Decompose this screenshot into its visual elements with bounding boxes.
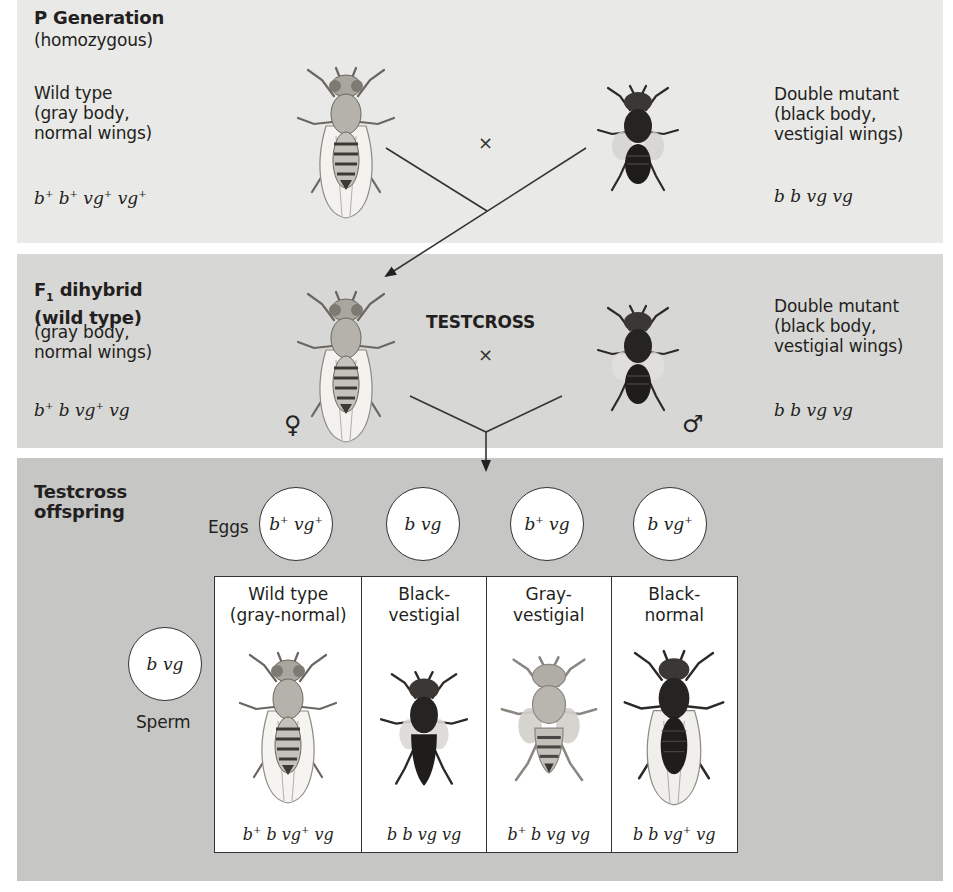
cross-symbol: × [478,132,493,153]
f1-title-line1: F1 dihybrid [34,280,142,308]
offspring-cell-black-vestigial: Black- vestigial b b vg vg [362,577,487,852]
offspring-phenotype: Black- normal [612,584,738,626]
phenotype-line: Double mutant [774,84,903,104]
black-vestigial-fly-icon [596,84,680,196]
sperm-genotype: b vg [147,654,184,674]
phenotype-line: vestigial wings) [774,336,903,356]
offspring-genotype: b+ b vg vg [487,824,611,844]
black-normal-fly-icon [619,649,729,807]
phenotype-line: normal wings) [34,342,152,362]
offspring-cell-black-normal: Black- normal b b vg+ vg [612,577,738,852]
egg-genotype: b vg+ [647,514,692,534]
f1-left-phenotype: (gray body, normal wings) [34,322,152,362]
wild-type-fly-icon [296,66,396,220]
egg-gamete: b+ vg [510,487,584,561]
egg-gamete: b+ vg+ [259,487,333,561]
egg-genotype: b+ vg+ [269,514,323,534]
f1-male-double-mutant-fly-icon [596,304,680,416]
p-generation-title: P Generation [34,8,164,28]
cross-symbol: × [478,344,493,365]
offspring-phenotype: Wild type (gray-normal) [215,584,361,626]
f1-right-phenotype: Double mutant (black body, vestigial win… [774,296,903,356]
f1-female-wild-type-fly-icon [296,290,396,444]
offspring-genotype: b b vg+ vg [612,824,738,844]
eggs-label: Eggs [208,517,248,537]
offspring-punnett-table: Wild type (gray-normal) b+ b vg+ vg Blac… [214,576,738,853]
p-right-phenotype: Double mutant (black body, vestigial win… [774,84,903,144]
phenotype-line: Double mutant [774,296,903,316]
f1-title: F1 dihybrid (wild type) [34,280,142,328]
p-left-phenotype: Wild type (gray body, normal wings) [34,83,152,143]
phenotype-line: Wild type [34,83,152,103]
offspring-genotype: b b vg vg [362,825,486,844]
offspring-phenotype: Gray- vestigial [487,584,611,626]
male-symbol-icon: ♂ [682,412,704,436]
offspring-phenotype: Black- vestigial [362,584,486,626]
sperm-label: Sperm [136,712,190,732]
offspring-title: Testcross offspring [34,482,127,522]
phenotype-line: (black body, [774,104,903,124]
f1-left-genotype: b+ b vg+ vg [34,400,130,420]
p-generation-subtitle: (homozygous) [34,30,153,50]
gray-normal-fly-icon [238,649,338,807]
phenotype-line: normal wings) [34,123,152,143]
p-left-genotype: b+ b+ vg+ vg+ [34,188,147,208]
phenotype-line: (black body, [774,316,903,336]
black-vestigial-fly-icon [379,665,469,795]
offspring-title-line: offspring [34,502,127,522]
offspring-title-line: Testcross [34,482,127,502]
sperm-gamete: b vg [128,627,202,701]
f1-right-genotype: b b vg vg [774,400,853,420]
testcross-label: TESTCROSS [426,312,535,332]
offspring-cell-gray-vestigial: Gray- vestigial b+ b vg vg [487,577,612,852]
phenotype-line: (gray body, [34,103,152,123]
gray-vestigial-fly-icon [495,655,603,787]
phenotype-line: (gray body, [34,322,152,342]
egg-gamete: b vg [386,487,460,561]
offspring-cell-wild-type: Wild type (gray-normal) b+ b vg+ vg [215,577,362,852]
offspring-genotype: b+ b vg+ vg [215,824,361,844]
egg-gamete: b vg+ [633,487,707,561]
p-right-genotype: b b vg vg [774,186,853,206]
egg-genotype: b vg [405,514,442,534]
egg-genotype: b+ vg [524,514,569,534]
phenotype-line: vestigial wings) [774,124,903,144]
